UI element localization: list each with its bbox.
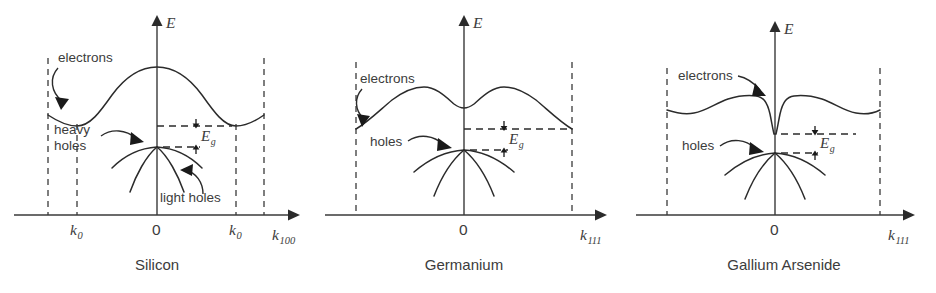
heavy-holes-label-line1-silicon: heavy — [54, 122, 90, 137]
energy-axis-germanium — [459, 15, 470, 215]
k-axis-label-silicon: k100 — [272, 226, 296, 246]
energy-axis-silicon — [152, 15, 163, 215]
bandgap-label-silicon: Eg — [200, 128, 216, 147]
origin-tick-silicon: 0 — [152, 221, 161, 238]
bandgap-label-germanium: Eg — [508, 131, 524, 150]
light-holes-label-silicon: light holes — [160, 190, 221, 205]
origin-tick-gallium-arsenide: 0 — [770, 221, 779, 238]
holes-arrowhead-germanium — [437, 138, 452, 151]
k0-left-tick-silicon: k0 — [70, 221, 83, 241]
energy-axis-label-germanium: E — [472, 14, 483, 31]
origin-tick-germanium: 0 — [459, 221, 468, 238]
k-axis-label-gallium-arsenide: k111 — [888, 226, 910, 246]
holes-label-gallium-arsenide: holes — [682, 138, 715, 153]
electrons-arrowhead-gallium-arsenide — [752, 83, 766, 96]
k0-right-tick-silicon: k0 — [229, 221, 242, 241]
electrons-label-germanium: electrons — [360, 71, 415, 86]
electrons-label-gallium-arsenide: electrons — [678, 68, 733, 83]
band-structure-figure: Eg electrons heavy holes light holes k0 … — [0, 0, 936, 293]
conduction-band-gallium-arsenide — [667, 96, 880, 134]
caption-germanium: Germanium — [425, 256, 503, 273]
k-axis-label-germanium: k111 — [580, 226, 602, 246]
conduction-band-silicon — [48, 67, 264, 126]
bandgap-measure-germanium — [501, 121, 508, 157]
holes-label-germanium: holes — [370, 134, 403, 149]
heavy-holes-label-line2-silicon: holes — [54, 138, 87, 153]
bandgap-measure-silicon — [193, 119, 200, 154]
panel-gallium-arsenide: Eg electrons holes 0 E k111 Gallium Arse… — [636, 20, 915, 273]
electrons-leader-germanium — [356, 89, 363, 118]
light-hole-band-left-silicon — [130, 147, 157, 192]
holes-arrowhead-gallium-arsenide — [749, 142, 764, 155]
light-holes-arrowhead-silicon — [180, 164, 193, 176]
electrons-arrowhead-silicon — [55, 97, 69, 110]
k-axis-germanium — [325, 210, 607, 221]
energy-axis-label-silicon: E — [165, 14, 176, 31]
energy-axis-label-gallium-arsenide: E — [783, 20, 794, 37]
light-hole-band-right-silicon — [157, 147, 184, 192]
caption-gallium-arsenide: Gallium Arsenide — [727, 256, 840, 273]
electrons-label-silicon: electrons — [58, 50, 113, 65]
bandgap-measure-gallium-arsenide — [812, 126, 819, 160]
panel-silicon: Eg electrons heavy holes light holes k0 … — [14, 14, 300, 273]
caption-silicon: Silicon — [135, 256, 179, 273]
bandgap-label-gallium-arsenide: Eg — [819, 135, 835, 154]
electrons-leader-silicon — [52, 68, 62, 101]
panel-germanium: Eg electrons holes 0 E k111 Germanium — [325, 14, 607, 273]
heavy-holes-arrowhead-silicon — [130, 132, 144, 145]
